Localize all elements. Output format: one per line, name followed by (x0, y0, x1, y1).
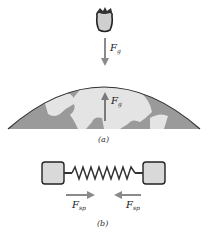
caption-b: (b) (97, 219, 108, 228)
spring-force-arrow-right (66, 191, 95, 199)
physics-figure: Fg Fg (a) Fsp Fsp (b) (0, 0, 208, 232)
right-block (143, 162, 165, 184)
spring-force-arrow-left (114, 191, 141, 199)
left-force-label: Fsp (71, 199, 86, 212)
caption-a: (a) (98, 135, 109, 144)
apple-icon (97, 7, 113, 32)
right-force-label: Fsp (125, 199, 140, 212)
left-block (42, 162, 64, 184)
spring (64, 167, 143, 179)
apple-force-label: Fg (109, 42, 121, 55)
gravity-arrow-down (101, 38, 109, 66)
